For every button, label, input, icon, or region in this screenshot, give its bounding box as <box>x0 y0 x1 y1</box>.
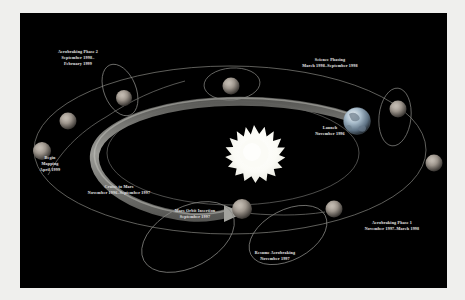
aerobraking-phase-1-line2: November 1997–March 1998 <box>337 226 447 232</box>
label-cruise-to-mars: Cruise to Mars November 1996–September 1… <box>55 184 183 196</box>
mars-globe-aerobraking-phase-2 <box>116 90 132 106</box>
launch-line2: November 1996 <box>298 131 362 137</box>
mars-globe-aerobraking-phase-1 <box>390 101 407 118</box>
mars-globe-upper-left <box>60 113 77 130</box>
aerobraking-phase-2-line3: February 1999 <box>30 61 126 67</box>
label-aerobraking-phase-1: Aerobraking Phase 1 November 1997–March … <box>337 220 447 232</box>
label-aerobraking-phase-2: Aerobraking Phase 2 September 1998– Febr… <box>30 49 126 67</box>
mars-globe-resume-aerobraking <box>326 201 343 218</box>
diagram-stage: Aerobraking Phase 2 September 1998– Febr… <box>0 0 465 300</box>
science-phasing-line2: March 1998–September 1998 <box>270 63 390 69</box>
mars-globe-aerobraking-phase-1-lower <box>426 155 443 172</box>
mission-diagram-panel: Aerobraking Phase 2 September 1998– Febr… <box>20 13 447 288</box>
label-begin-mapping: Begin Mapping April 1999 <box>22 155 78 173</box>
mars-globe-science-phasing <box>223 78 240 95</box>
begin-mapping-line3: April 1999 <box>22 167 78 173</box>
label-launch: Launch November 1996 <box>298 125 362 137</box>
label-mars-orbit-insertion: Mars Orbit Insertion September 1997 <box>140 208 250 220</box>
sun-burst-icon <box>225 125 285 183</box>
label-resume-aerobraking: Resume Aerobraking November 1997 <box>217 250 333 262</box>
label-science-phasing: Science Phasing March 1998–September 199… <box>270 57 390 69</box>
resume-aerobraking-line2: November 1997 <box>217 256 333 262</box>
mars-orbit-insertion-line2: September 1997 <box>140 214 250 220</box>
cruise-to-mars-line2: November 1996–September 1997 <box>55 190 183 196</box>
